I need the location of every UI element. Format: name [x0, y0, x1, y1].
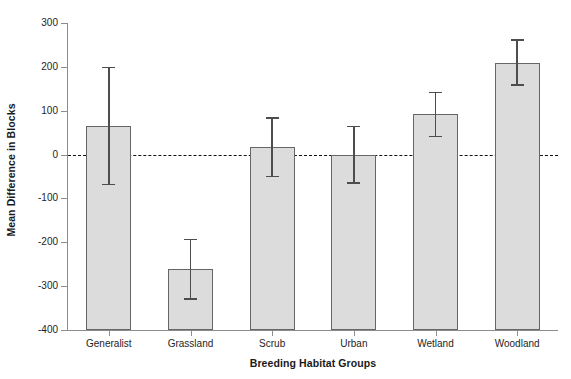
y-axis-tick	[61, 67, 67, 68]
y-axis-tick	[61, 23, 67, 24]
x-axis-category-label: Urban	[313, 338, 395, 350]
y-axis-tick	[61, 330, 67, 331]
error-bar-cap-lower	[429, 136, 442, 137]
bar	[495, 63, 540, 330]
y-axis-tick-label: -100	[4, 193, 58, 203]
x-axis-category-label: Generalist	[68, 338, 150, 350]
x-axis-category-label: Woodland	[476, 338, 558, 350]
y-axis-tick	[61, 242, 67, 243]
y-axis-tick-label: 200	[4, 62, 58, 72]
y-axis-tick-label: 0	[4, 150, 58, 160]
y-axis-tick	[61, 286, 67, 287]
x-axis-category-label: Scrub	[231, 338, 313, 350]
error-bar-cap-lower	[266, 176, 279, 177]
bar-chart: Mean Difference in Blocks 3002001000-100…	[0, 0, 571, 379]
x-axis-title: Breeding Habitat Groups	[68, 357, 558, 369]
y-axis-tick	[61, 198, 67, 199]
x-axis-tick	[517, 331, 518, 336]
error-bar-cap-lower	[184, 298, 197, 299]
y-axis-tick-label: 100	[4, 106, 58, 116]
y-axis-tick	[61, 155, 67, 156]
error-bar-cap-lower	[347, 182, 360, 183]
error-bar-cap-lower	[102, 184, 115, 185]
error-bar-stem	[271, 117, 272, 175]
error-bar-stem	[108, 67, 109, 184]
error-bar-cap-upper	[266, 117, 279, 118]
error-bar-stem	[190, 239, 191, 299]
y-axis-tick-labels: 3002001000-100-200-300-400	[0, 0, 58, 379]
y-axis-tick-label: -400	[4, 325, 58, 335]
bar	[413, 114, 458, 330]
error-bar-cap-upper	[347, 126, 360, 127]
y-axis-tick-label: 300	[4, 18, 58, 28]
error-bar-cap-upper	[429, 92, 442, 93]
error-bar-cap-upper	[102, 67, 115, 68]
zero-reference-line	[68, 155, 558, 156]
x-axis-tick	[354, 331, 355, 336]
y-axis-tick-label: -200	[4, 237, 58, 247]
x-axis-category-label: Wetland	[395, 338, 477, 350]
error-bar-cap-upper	[511, 39, 524, 40]
x-axis-tick	[436, 331, 437, 336]
error-bar-stem	[516, 39, 517, 84]
plot-area	[68, 23, 558, 330]
error-bar-stem	[353, 126, 354, 183]
y-axis-tick	[61, 111, 67, 112]
y-axis-tick-label: -300	[4, 281, 58, 291]
x-axis-tick	[109, 331, 110, 336]
x-axis-line	[68, 330, 558, 331]
x-axis-category-label: Grassland	[150, 338, 232, 350]
x-axis-tick	[272, 331, 273, 336]
error-bar-stem	[435, 92, 436, 136]
error-bar-cap-lower	[511, 84, 524, 85]
x-axis-tick	[191, 331, 192, 336]
error-bar-cap-upper	[184, 239, 197, 240]
